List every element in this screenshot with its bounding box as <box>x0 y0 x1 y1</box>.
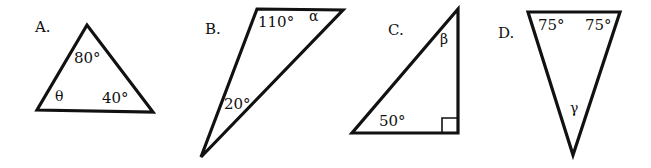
angle-a-left-theta: θ <box>55 88 63 104</box>
right-angle-marker <box>442 118 458 133</box>
triangle-b: B. 110° α 20° <box>201 8 343 157</box>
triangle-angle-diagram: A. 80° θ 40° B. 110° α 20° C. β 50° D. 7… <box>0 0 651 168</box>
panel-label-a: A. <box>34 18 51 36</box>
angle-c-bottom-left: 50° <box>379 112 406 130</box>
angle-b-top-right-alpha: α <box>309 8 319 24</box>
panel-label-d: D. <box>498 24 514 42</box>
panel-label-c: C. <box>388 21 404 39</box>
angle-d-top-left: 75° <box>538 16 565 34</box>
triangle-b-shape <box>201 9 343 157</box>
angle-a-top: 80° <box>74 49 101 67</box>
angle-c-top-beta: β <box>440 31 448 47</box>
angle-d-bottom-gamma: γ <box>570 100 578 116</box>
triangle-d: D. 75° 75° γ <box>498 12 620 155</box>
angle-b-bottom: 20° <box>224 95 251 113</box>
angle-a-right: 40° <box>102 89 129 107</box>
triangle-a: A. 80° θ 40° <box>34 18 153 112</box>
angle-d-top-right: 75° <box>585 16 612 34</box>
diagram-svg: A. 80° θ 40° B. 110° α 20° C. β 50° D. 7… <box>0 0 651 168</box>
angle-b-top-left: 110° <box>258 13 294 31</box>
triangle-c: C. β 50° <box>352 9 458 133</box>
panel-label-b: B. <box>205 20 221 38</box>
